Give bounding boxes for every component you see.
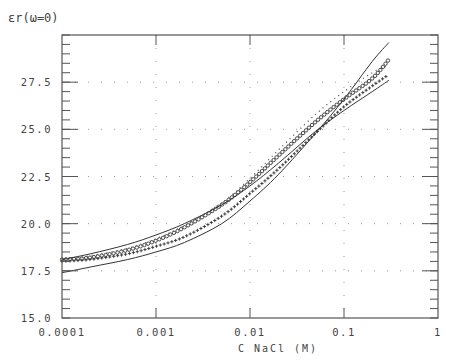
x-tick-label: 0.01 xyxy=(234,326,265,338)
y-tick-label: 17.5 xyxy=(21,265,52,277)
series-solid xyxy=(62,80,389,259)
plot-frame xyxy=(62,35,438,318)
series-dotted xyxy=(62,65,389,259)
tick-labels: 0.00010.0010.010.1115.017.520.022.525.02… xyxy=(21,76,442,338)
x-tick-label: 0.0001 xyxy=(39,326,86,338)
series-markers-+ xyxy=(60,75,388,263)
y-tick-label: 22.5 xyxy=(21,171,52,183)
series-solid xyxy=(62,43,389,273)
chart: 0.00010.0010.010.1115.017.520.022.525.02… xyxy=(0,0,458,364)
x-tick-label: 0.001 xyxy=(136,326,175,338)
y-tick-label: 27.5 xyxy=(21,76,52,88)
grid-lines xyxy=(62,35,438,318)
y-tick-label: 20.0 xyxy=(21,218,52,230)
y-axis-title: εr(ω=0) xyxy=(8,11,59,25)
data-series xyxy=(60,43,389,273)
y-tick-label: 15.0 xyxy=(21,312,52,324)
x-tick-label: 0.1 xyxy=(332,326,355,338)
axis-ticks xyxy=(62,35,438,318)
y-tick-label: 25.0 xyxy=(21,123,52,135)
x-axis-title: C NaCl (M) xyxy=(238,343,318,354)
x-tick-label: 1 xyxy=(434,326,442,338)
series-markers-o xyxy=(60,59,389,261)
